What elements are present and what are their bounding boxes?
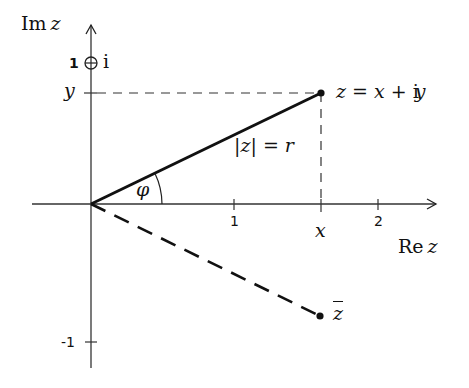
y-var-tick-label: y (64, 81, 75, 100)
real-axis-label: Rez (398, 237, 438, 256)
z-lhs: z (336, 80, 346, 102)
angle-arc (155, 174, 162, 205)
point-z-conjugate (316, 312, 323, 319)
z-x: x (374, 80, 385, 102)
angle-phi-label: φ (136, 180, 149, 199)
x-tick-label-1: 1 (230, 214, 239, 228)
z-y: y (415, 80, 426, 102)
z-eq: = (352, 80, 368, 102)
z-point-label: z = x + iy (336, 82, 426, 101)
conjugate-vector (91, 204, 320, 316)
imag-axis-var: z (51, 12, 61, 34)
y-tick-label-1: 1 (69, 56, 79, 70)
x-var-tick-label: x (315, 221, 326, 240)
y-tick-label-minus-1: -1 (61, 335, 75, 349)
imag-axis-label: Imz (21, 14, 61, 33)
modulus-eq: = (263, 134, 279, 156)
conjugate-label: z (333, 304, 343, 323)
real-axis-prefix: Re (398, 235, 424, 257)
modulus-abs-z: |z| (234, 134, 257, 156)
modulus-label: |z| = r (234, 136, 294, 155)
imag-axis-prefix: Im (21, 12, 47, 34)
modulus-r: r (285, 134, 294, 156)
point-z (317, 89, 324, 96)
imaginary-unit-label: i (103, 52, 109, 71)
real-axis-var: z (428, 235, 438, 257)
z-plus: + (391, 80, 407, 102)
x-tick-label-2: 2 (374, 214, 383, 228)
